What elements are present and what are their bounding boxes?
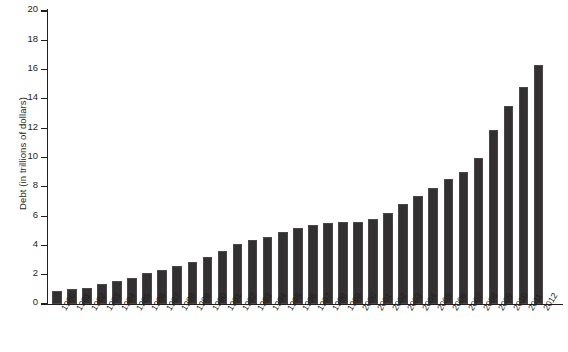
- bar: [52, 291, 62, 304]
- bar: [474, 158, 484, 305]
- y-tick-label: 18: [27, 33, 38, 44]
- bar: [413, 196, 423, 304]
- bar: [519, 87, 529, 304]
- bar: [459, 172, 469, 304]
- y-tick-label: 6: [33, 209, 38, 220]
- bar: [428, 188, 438, 304]
- plot-area: [47, 11, 562, 304]
- y-tick-label: 4: [33, 238, 38, 249]
- bar: [534, 65, 544, 304]
- y-tick-label: 14: [27, 91, 38, 102]
- bar: [398, 204, 408, 304]
- y-tick-label: 10: [27, 150, 38, 161]
- y-tick-label: 12: [27, 121, 38, 132]
- y-tick-label: 2: [33, 267, 38, 278]
- bar: [504, 106, 514, 304]
- y-tick-label: 20: [27, 3, 38, 14]
- bar: [444, 179, 454, 304]
- y-tick-label: 0: [33, 296, 38, 307]
- bar: [489, 130, 499, 304]
- y-tick-label: 16: [27, 62, 38, 73]
- debt-bar-chart: Debt (in trillions of dollars) 024681012…: [0, 0, 568, 352]
- y-tick-label: 8: [33, 179, 38, 190]
- y-axis-title: Debt (in trillions of dollars): [17, 74, 28, 234]
